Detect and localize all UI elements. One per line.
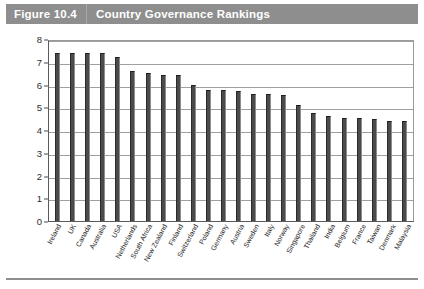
plot-area (48, 40, 414, 222)
figure-container: Figure 10.4 Country Governance Rankings … (0, 0, 424, 289)
bar (342, 118, 347, 222)
bar-series (49, 41, 413, 221)
figure-title: Country Governance Rankings (96, 8, 270, 20)
bar (326, 116, 331, 221)
bar (130, 71, 135, 221)
bar (70, 53, 75, 221)
bar (191, 85, 196, 222)
bar (236, 91, 241, 221)
y-tick-label: 7 (37, 58, 42, 68)
x-tick-label: France (350, 223, 366, 246)
bar (251, 94, 256, 221)
y-tick-label: 5 (37, 104, 42, 114)
title-divider (86, 4, 87, 24)
bar (176, 75, 181, 221)
bar (296, 105, 301, 221)
bar (206, 90, 211, 221)
bar (221, 90, 226, 221)
y-axis: 012345678 (26, 40, 48, 222)
bar (387, 121, 392, 221)
bar (357, 118, 362, 222)
y-tick-label: 8 (37, 35, 42, 45)
bar (266, 94, 271, 221)
x-tick-label: Italy (263, 223, 275, 238)
bar (281, 95, 286, 221)
bottom-rule (6, 278, 418, 280)
x-tick-label: Ireland (46, 223, 62, 245)
bar (402, 121, 407, 221)
bar (311, 113, 316, 221)
y-tick-label: 3 (37, 149, 42, 159)
bar (146, 73, 151, 221)
y-tick-label: 1 (37, 195, 42, 205)
bar (85, 53, 90, 221)
bar (372, 119, 377, 221)
figure-number-label: Figure 10.4 (6, 8, 77, 20)
x-tick-label: UK (66, 223, 77, 235)
x-axis-labels: IrelandUKCanadaAustraliaUSANetherlandsSo… (48, 223, 414, 285)
x-tick-label: Belgium (333, 223, 351, 249)
x-tick-label: USA (110, 223, 123, 239)
bar (55, 53, 60, 221)
y-tick-label: 0 (37, 217, 42, 227)
y-tick-label: 6 (37, 81, 42, 91)
bar (161, 75, 166, 221)
y-tick-label: 4 (37, 126, 42, 136)
y-tick-label: 2 (37, 172, 42, 182)
figure-title-bar: Figure 10.4 Country Governance Rankings (6, 4, 418, 24)
bar (100, 53, 105, 221)
x-tick-label: India (323, 223, 336, 240)
bar (115, 57, 120, 221)
